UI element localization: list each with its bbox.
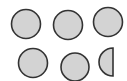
shapes-canvas [0,0,127,81]
circle-shape [54,11,83,40]
half-circle-shape [99,48,113,76]
circle-shape [94,8,123,37]
circle-shape [12,10,41,39]
circle-shape [61,53,89,81]
circle-shape [19,49,48,78]
